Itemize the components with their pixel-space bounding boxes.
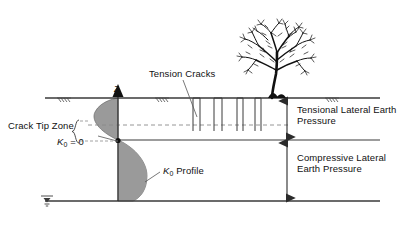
k0-profile-shape: [94, 98, 147, 201]
k0-zero-point: [115, 138, 120, 143]
label-compressive-lateral-earth-pressure: Compressive Lateral Earth Pressure: [297, 152, 401, 174]
label-k0-profile: K0 Profile: [163, 165, 204, 177]
k0-profile-subscript: 0: [169, 170, 173, 177]
k0-zero-equation: = 0: [67, 136, 84, 147]
label-depth-axis: z: [114, 83, 119, 94]
tree-icon: [237, 19, 316, 98]
label-crack-tip-zone: Crack Tip Zone: [8, 120, 74, 131]
label-k0-equals-zero: K0 = 0: [57, 136, 84, 148]
tension-cracks-group: [193, 98, 261, 131]
diagram-canvas: Tension Cracks Crack Tip Zone K0 = 0 K0 …: [0, 0, 406, 226]
k0-zero-subscript: 0: [63, 141, 67, 148]
label-tension-cracks: Tension Cracks: [149, 68, 215, 79]
k0-profile-text: Profile: [173, 165, 203, 176]
label-tensional-lateral-earth-pressure: Tensional Lateral Earth Pressure: [297, 104, 401, 126]
